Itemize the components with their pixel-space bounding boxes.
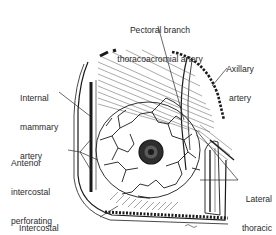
label-line: intercostal — [11, 188, 52, 198]
leader-lateral-thoracic-1 — [196, 130, 238, 180]
label-line: Lateral — [232, 195, 272, 205]
label-line: Internal — [20, 94, 58, 104]
label-axillary-artery: Axillary artery — [220, 46, 260, 123]
label-line: Anterior — [11, 159, 52, 169]
label-line: thoracic — [232, 224, 272, 234]
label-intercostal-branches: Intercostal branches of arteries — [19, 205, 95, 235]
label-line: artery — [220, 94, 260, 104]
label-lateral-thoracic-artery: Lateral thoracic artery — [232, 176, 272, 235]
label-line: thoracoacromial artery — [108, 55, 212, 65]
label-line: Intercostal — [19, 224, 95, 234]
anatomy-figure: Pectoral branch thoracoacromial artery A… — [0, 0, 276, 235]
label-line: mammary — [20, 123, 58, 133]
artist-signature — [185, 225, 197, 228]
label-line: Pectoral branch — [108, 26, 212, 36]
label-line: Axillary — [220, 65, 260, 75]
label-pectoral-branch: Pectoral branch thoracoacromial artery — [108, 7, 212, 84]
